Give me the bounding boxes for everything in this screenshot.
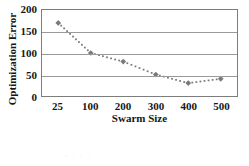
line-dot (84, 47, 86, 49)
line-dot (126, 62, 128, 64)
y-axis-tick-label: 200 (13, 4, 37, 14)
line-dot (110, 57, 112, 59)
line-dot (204, 80, 206, 82)
gridline (42, 54, 237, 55)
x-axis-tick-label: 100 (82, 100, 99, 112)
line-dot (72, 36, 74, 38)
y-axis-tick-label: 100 (13, 48, 37, 58)
line-dot (195, 81, 197, 83)
scan-artifact-speckle (60, 152, 100, 160)
line-dot (143, 69, 145, 71)
data-point-marker (120, 59, 126, 65)
gridline (42, 32, 237, 33)
line-dot (75, 38, 77, 40)
line-dot (69, 33, 71, 35)
chart-figure: Optimization Error 050100150200 25100200… (0, 0, 249, 166)
line-dot (171, 78, 173, 80)
line-dot (63, 27, 65, 29)
y-axis-tick-label: 50 (13, 70, 37, 80)
line-dot (102, 55, 104, 57)
line-dot (81, 44, 83, 46)
y-axis-tick-label: 0 (13, 92, 37, 102)
line-dot (130, 64, 132, 66)
line-dot (78, 41, 80, 43)
gridline (42, 76, 237, 77)
x-axis-tick-label: 500 (213, 100, 230, 112)
data-series-optimization-error (42, 10, 237, 96)
line-dot (151, 72, 153, 74)
line-dot (212, 79, 214, 81)
line-dot (139, 67, 141, 69)
line-dot (200, 81, 202, 83)
plot-area (41, 9, 238, 97)
line-dot (60, 25, 62, 27)
line-dot (175, 79, 177, 81)
line-dot (87, 49, 89, 51)
line-dot (106, 56, 108, 58)
line-dot (183, 81, 185, 83)
x-axis-tick-label: 25 (52, 100, 63, 112)
x-axis-tick-label: 400 (181, 100, 198, 112)
data-point-marker (55, 20, 61, 26)
line-dot (167, 77, 169, 79)
x-axis-tick-label: 300 (148, 100, 165, 112)
x-axis-title: Swarm Size (41, 112, 238, 124)
y-axis-tick-labels: 050100150200 (13, 0, 37, 166)
line-dot (114, 59, 116, 61)
line-dot (118, 60, 120, 62)
line-dot (135, 66, 137, 68)
line-dot (191, 82, 193, 84)
x-axis-tick-label: 200 (115, 100, 132, 112)
data-point-marker (185, 80, 191, 86)
y-axis-tick-label: 150 (13, 26, 37, 36)
line-dot (147, 70, 149, 72)
line-dot (216, 78, 218, 80)
line-dot (179, 80, 181, 82)
line-dot (208, 80, 210, 82)
